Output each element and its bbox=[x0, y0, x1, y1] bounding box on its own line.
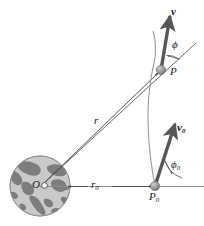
label-radius-initial: r0 bbox=[91, 179, 99, 192]
label-point-p0-sub: 0 bbox=[156, 196, 159, 203]
velocity-initial-vector bbox=[155, 124, 175, 186]
label-angle-phi0-sub: 0 bbox=[177, 164, 180, 171]
trajectory-curve bbox=[148, 31, 156, 186]
point-marker-O bbox=[42, 183, 48, 189]
orbital-trajectory-figure: v v0 P P0 O r r0 ϕ ϕ0 bbox=[0, 0, 204, 226]
label-radius: r bbox=[94, 115, 98, 126]
label-point-p0-base: P bbox=[149, 190, 156, 202]
label-velocity: v bbox=[171, 6, 176, 17]
label-velocity-initial: v0 bbox=[177, 122, 185, 135]
label-point-p0: P0 bbox=[149, 191, 159, 204]
point-marker-P bbox=[156, 65, 165, 74]
velocity-vector bbox=[161, 16, 170, 70]
label-point-p: P bbox=[170, 66, 177, 77]
label-origin: O bbox=[32, 179, 40, 190]
radius-vector-line bbox=[43, 73, 158, 184]
figure-canvas bbox=[0, 0, 204, 226]
label-radius-initial-sub: 0 bbox=[95, 184, 98, 191]
label-angle-phi0: ϕ0 bbox=[171, 159, 180, 172]
label-angle-phi: ϕ bbox=[172, 39, 178, 50]
label-velocity-initial-sub: 0 bbox=[182, 127, 185, 134]
